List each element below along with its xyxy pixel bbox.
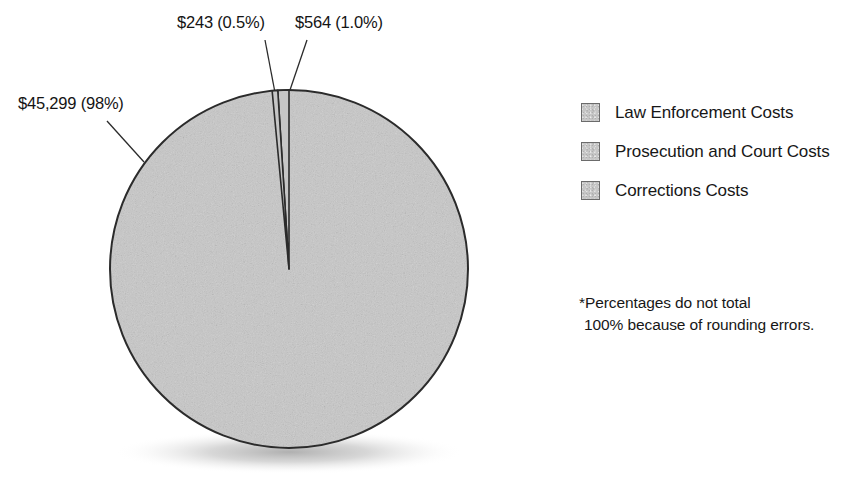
footnote-line-1: *Percentages do not total <box>579 292 844 314</box>
legend-swatch-icon <box>581 103 600 122</box>
legend-item-label: Corrections Costs <box>615 178 748 204</box>
data-label-law-enforcement: $243 (0.5%) <box>177 14 265 31</box>
leader-line-prosecution <box>290 40 307 90</box>
legend-item-prosecution-and-court-costs[interactable]: Prosecution and Court Costs <box>578 139 848 178</box>
chart-legend: Law Enforcement Costs Prosecution and Co… <box>578 100 848 217</box>
legend-item-label: Prosecution and Court Costs <box>615 139 830 165</box>
legend-item-law-enforcement-costs[interactable]: Law Enforcement Costs <box>578 100 848 139</box>
pie-chart-figure: $243 (0.5%) $564 (1.0%) $45,299 (98%) La… <box>0 0 849 488</box>
legend-swatch-icon <box>581 181 600 200</box>
data-label-prosecution: $564 (1.0%) <box>295 14 383 31</box>
legend-swatch-icon <box>581 142 600 161</box>
leader-line-law-enforcement <box>265 40 275 90</box>
chart-footnote: *Percentages do not total 100% because o… <box>579 292 844 336</box>
pie-chart-plot-area: $243 (0.5%) $564 (1.0%) $45,299 (98%) <box>0 0 520 488</box>
pie-chart-svg <box>0 0 520 488</box>
legend-item-label: Law Enforcement Costs <box>615 100 793 126</box>
data-label-corrections: $45,299 (98%) <box>18 95 124 112</box>
legend-item-corrections-costs[interactable]: Corrections Costs <box>578 178 848 217</box>
footnote-line-2: 100% because of rounding errors. <box>579 314 844 336</box>
leader-line-corrections <box>107 121 144 162</box>
